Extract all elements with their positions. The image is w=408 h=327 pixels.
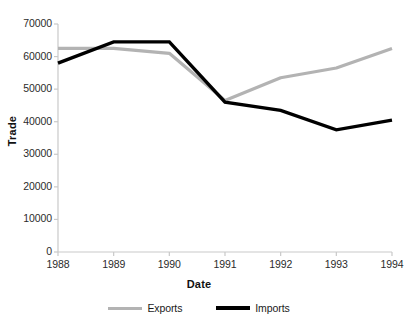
y-tick-label: 10000 — [0, 213, 52, 224]
x-tick-label: 1992 — [251, 259, 311, 270]
legend-item-imports[interactable]: Imports — [216, 302, 289, 314]
legend-item-exports[interactable]: Exports — [108, 302, 182, 314]
x-tick-label: 1991 — [195, 259, 255, 270]
y-tick-label: 20000 — [0, 181, 52, 192]
legend-label-imports: Imports — [255, 302, 289, 314]
x-tick-marks — [58, 252, 392, 256]
series-line-exports — [58, 48, 392, 100]
x-tick-label: 1994 — [362, 259, 408, 270]
x-axis-title: Date — [0, 278, 398, 290]
y-tick-label: 60000 — [0, 51, 52, 62]
y-tick-label: 70000 — [0, 18, 52, 29]
chart-legend: Exports Imports — [0, 302, 398, 314]
legend-swatch-imports-icon — [216, 306, 250, 310]
x-tick-label: 1990 — [139, 259, 199, 270]
x-tick-label: 1988 — [28, 259, 88, 270]
legend-swatch-exports-icon — [108, 307, 142, 310]
x-tick-label: 1993 — [306, 259, 366, 270]
series-line-imports — [58, 42, 392, 130]
y-tick-label: 0 — [0, 246, 52, 257]
x-tick-label: 1989 — [84, 259, 144, 270]
legend-label-exports: Exports — [147, 302, 182, 314]
y-axis-title: Trade — [6, 91, 18, 171]
